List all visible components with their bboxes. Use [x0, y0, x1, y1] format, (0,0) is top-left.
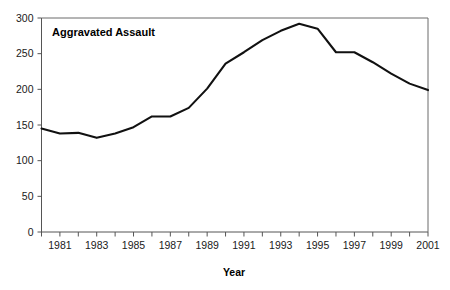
x-tick-label: 1983 — [85, 239, 109, 251]
y-tick-label: 250 — [16, 47, 34, 59]
chart-figure: 050100150200250300 198119831985198719891… — [0, 0, 450, 290]
y-tick-label: 200 — [16, 83, 34, 95]
x-tick-label: 1989 — [195, 239, 219, 251]
x-tick-label: 1995 — [306, 239, 330, 251]
x-tick-label: 1991 — [232, 239, 256, 251]
x-axis-tick-labels: 1981198319851987198919911993199519971999… — [48, 239, 440, 251]
y-tick-label: 0 — [28, 226, 34, 238]
data-line-aggravated-assault — [42, 24, 429, 138]
y-tick-label: 50 — [22, 190, 34, 202]
y-axis-ticks — [38, 18, 42, 232]
x-tick-label: 1999 — [380, 239, 404, 251]
x-tick-label: 1981 — [48, 239, 72, 251]
data-series-group — [42, 24, 429, 138]
x-tick-label: 2001 — [416, 239, 440, 251]
x-axis-ticks — [42, 232, 429, 237]
y-tick-label: 150 — [16, 119, 34, 131]
x-tick-label: 1993 — [269, 239, 293, 251]
x-tick-label: 1987 — [159, 239, 183, 251]
plot-frame — [42, 18, 429, 232]
y-axis-tick-labels: 050100150200250300 — [16, 12, 34, 238]
y-tick-label: 300 — [16, 12, 34, 24]
x-tick-label: 1985 — [122, 239, 146, 251]
x-axis-title: Year — [223, 266, 245, 278]
x-tick-label: 1997 — [343, 239, 367, 251]
y-tick-label: 100 — [16, 154, 34, 166]
series-label-aggravated-assault: Aggravated Assault — [52, 26, 155, 38]
line-chart-canvas: 050100150200250300 198119831985198719891… — [0, 0, 450, 290]
